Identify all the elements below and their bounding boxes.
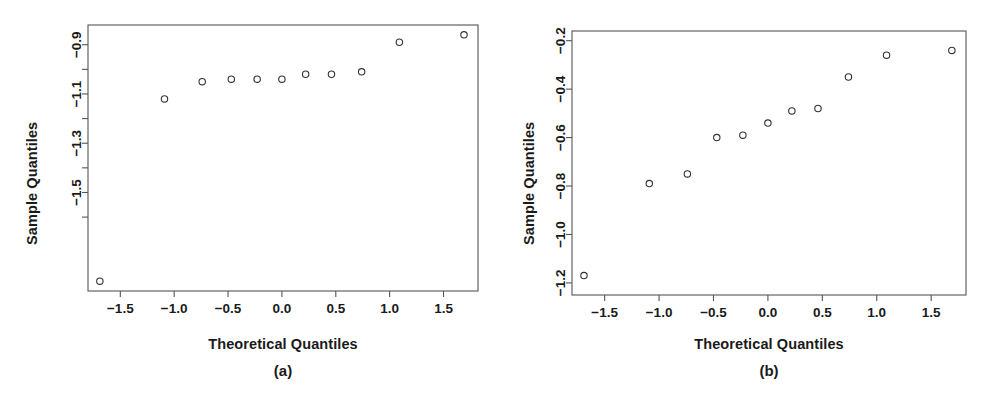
data-point xyxy=(228,76,234,82)
data-point xyxy=(740,132,746,138)
x-tick-label: 0.0 xyxy=(759,305,778,320)
x-tick-label: −1.5 xyxy=(107,301,134,316)
data-point xyxy=(358,69,364,75)
y-tick-label: −1.0 xyxy=(554,221,569,248)
data-point xyxy=(789,108,795,114)
y-tick-label: −0.2 xyxy=(554,27,569,54)
y-tick-label: −1.5 xyxy=(70,179,85,206)
data-point xyxy=(646,180,652,186)
data-point xyxy=(161,96,167,102)
data-point xyxy=(199,78,205,84)
data-point xyxy=(714,134,720,140)
y-tick-label: −0.9 xyxy=(70,31,85,58)
x-tick-label: 1.0 xyxy=(867,305,886,320)
data-point xyxy=(461,32,467,38)
data-point xyxy=(765,120,771,126)
panel-b-x-axis-title: Theoretical Quantiles xyxy=(572,336,966,352)
y-tick-label: −0.6 xyxy=(554,124,569,151)
x-tick-label: 0.5 xyxy=(326,301,345,316)
y-tick-label: −0.8 xyxy=(554,172,569,199)
y-tick-label: −0.4 xyxy=(554,75,569,102)
data-point xyxy=(581,272,587,278)
panel-a: −1.5−1.0−0.50.00.51.01.5−0.9−1.1−1.3−1.5… xyxy=(0,0,496,402)
data-point xyxy=(949,47,955,53)
x-tick-label: 0.5 xyxy=(813,305,832,320)
data-point xyxy=(815,105,821,111)
panel-a-y-axis-title: Sample Quantiles xyxy=(24,122,40,245)
x-tick-label: 0.0 xyxy=(273,301,292,316)
x-tick-label: 1.5 xyxy=(434,301,453,316)
data-point xyxy=(684,171,690,177)
data-point xyxy=(302,71,308,77)
y-tick-label: −1.2 xyxy=(554,270,569,297)
panel-a-x-axis-title: Theoretical Quantiles xyxy=(88,336,478,352)
x-tick-label: −1.5 xyxy=(591,305,618,320)
data-point xyxy=(396,39,402,45)
panel-b: −1.5−1.0−0.50.00.51.01.5−0.2−0.4−0.6−0.8… xyxy=(496,0,991,402)
x-tick-label: −0.5 xyxy=(700,305,727,320)
x-tick-label: 1.5 xyxy=(922,305,941,320)
panel-b-y-axis-title: Sample Quantiles xyxy=(521,122,537,245)
x-tick-label: 1.0 xyxy=(380,301,399,316)
data-point xyxy=(279,76,285,82)
panel-b-caption: (b) xyxy=(572,362,966,379)
data-point xyxy=(97,278,103,284)
panel-a-caption: (a) xyxy=(88,362,478,379)
x-tick-label: −1.0 xyxy=(161,301,188,316)
x-tick-label: −1.0 xyxy=(646,305,673,320)
data-point xyxy=(254,76,260,82)
data-point xyxy=(845,74,851,80)
y-tick-label: −1.3 xyxy=(70,129,85,156)
data-point xyxy=(883,52,889,58)
x-tick-label: −0.5 xyxy=(215,301,242,316)
data-point xyxy=(328,71,334,77)
y-tick-label: −1.1 xyxy=(70,80,85,107)
figure-qq-plots: −1.5−1.0−0.50.00.51.01.5−0.9−1.1−1.3−1.5… xyxy=(0,0,991,402)
